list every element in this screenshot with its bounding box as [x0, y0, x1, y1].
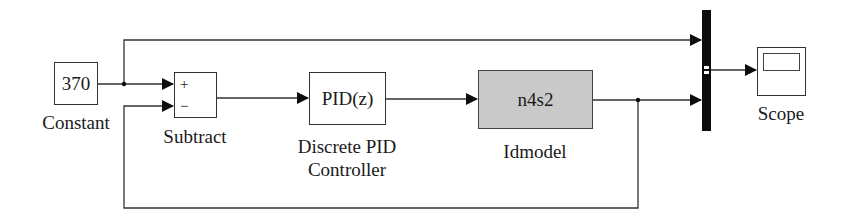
pid-label-line1: Discrete PID — [282, 136, 412, 158]
junction-dot-constant — [122, 82, 126, 86]
pid-content: PID(z) — [322, 88, 374, 110]
plus-sign: + — [180, 77, 188, 92]
subtract-label: Subtract — [150, 126, 240, 148]
constant-label: Constant — [34, 112, 118, 134]
idmodel-label: Idmodel — [490, 141, 580, 163]
pid-label-line2: Controller — [282, 159, 412, 181]
scope-screen-icon — [763, 53, 800, 71]
idmodel-content: n4s2 — [518, 89, 554, 111]
signal-wires — [0, 0, 841, 221]
idmodel-block[interactable]: n4s2 — [478, 70, 593, 129]
constant-value: 370 — [62, 73, 91, 95]
scope-label: Scope — [745, 103, 817, 125]
minus-sign: − — [180, 99, 188, 114]
constant-block[interactable]: 370 — [54, 62, 98, 105]
mux-output-port — [704, 66, 709, 69]
mux-output-port — [704, 71, 709, 74]
junction-dot-output — [636, 98, 640, 102]
pid-controller-block[interactable]: PID(z) — [309, 72, 386, 125]
